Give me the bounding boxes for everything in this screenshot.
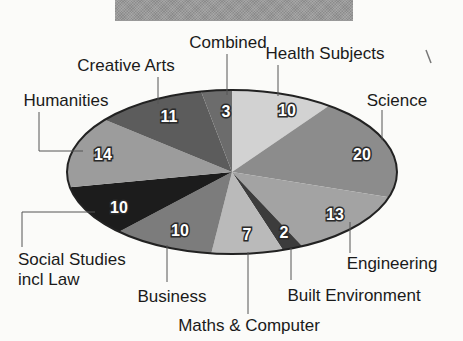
pie-slices [67, 90, 397, 254]
stray-mark [426, 50, 431, 63]
value-social-studies: 10 [110, 199, 128, 216]
value-health: 10 [278, 102, 296, 119]
pie-chart: 10 20 13 2 7 10 10 14 11 3 Combined Crea… [0, 0, 463, 341]
label-combined: Combined [189, 33, 267, 52]
value-combined: 3 [222, 103, 231, 120]
value-engineering: 13 [326, 206, 344, 223]
value-humanities: 14 [94, 146, 112, 163]
value-business: 10 [171, 222, 189, 239]
value-creative-arts: 11 [161, 108, 178, 125]
label-social-studies-line2: incl Law [18, 270, 80, 289]
value-built-environment: 2 [280, 224, 289, 241]
label-social-studies-line1: Social Studies [18, 250, 126, 269]
value-science: 20 [353, 146, 371, 163]
label-science: Science [367, 91, 427, 110]
label-engineering: Engineering [347, 254, 438, 273]
label-business: Business [138, 287, 207, 306]
label-built-environment: Built Environment [287, 286, 421, 305]
value-maths: 7 [243, 226, 252, 243]
label-creative-arts: Creative Arts [77, 56, 174, 75]
label-health-subjects: Health Subjects [265, 44, 384, 63]
label-humanities: Humanities [23, 91, 108, 110]
label-maths-computer: Maths & Computer [178, 316, 320, 335]
